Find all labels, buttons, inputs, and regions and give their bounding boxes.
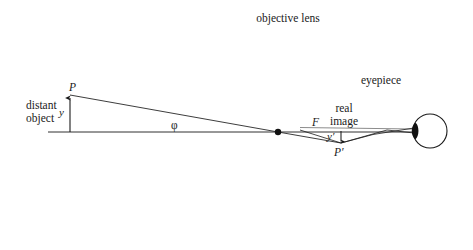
optics-ray-diagram — [0, 0, 473, 250]
focal-point-f-label: F — [312, 116, 319, 128]
real-image-label-line2: image — [330, 115, 358, 127]
objective-lens — [256, 30, 300, 245]
objective-center-dot — [275, 129, 281, 135]
angle-phi-label: φ — [171, 119, 178, 131]
distant-object-label-line1: distant — [26, 99, 57, 111]
distant-object-label-line2: object — [26, 112, 54, 124]
objective-lens-label: objective lens — [256, 12, 320, 24]
object-height-label: y — [59, 107, 64, 119]
image-height-label: y′ — [327, 131, 334, 143]
figure-canvas: objective lens eyepiece distant object P… — [0, 0, 473, 250]
point-p-label: P — [69, 81, 76, 93]
point-p-prime-label: P′ — [334, 146, 344, 158]
eyepiece-label: eyepiece — [361, 74, 401, 86]
real-image-label-line1: real — [335, 102, 352, 114]
